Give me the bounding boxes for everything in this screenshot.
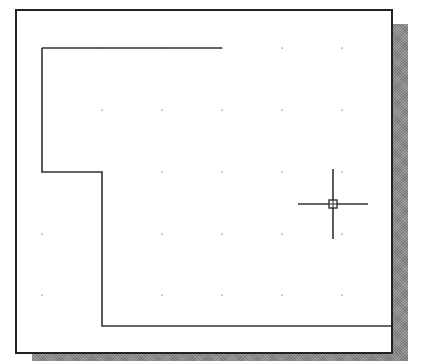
grid-dot — [102, 110, 103, 111]
grid-dot — [162, 172, 163, 173]
outline-polyline[interactable] — [42, 48, 391, 326]
grid-dot — [282, 172, 283, 173]
grid-dot — [342, 110, 343, 111]
grid-dot — [282, 234, 283, 235]
grid-dot — [342, 234, 343, 235]
grid-dot — [222, 295, 223, 296]
grid-dot — [342, 295, 343, 296]
grid-dot — [222, 110, 223, 111]
grid-dot — [342, 48, 343, 49]
grid-dot — [342, 172, 343, 173]
grid-dot — [282, 110, 283, 111]
grid-dot — [282, 48, 283, 49]
grid-dot — [222, 172, 223, 173]
crosshair-cursor-icon — [298, 169, 368, 239]
grid-dot — [282, 295, 283, 296]
grid-dot — [162, 110, 163, 111]
grid-dot — [42, 234, 43, 235]
drawing-svg[interactable] — [0, 0, 425, 361]
grid-dot — [162, 234, 163, 235]
grid-dot — [42, 295, 43, 296]
grid-dot — [162, 295, 163, 296]
grid-dot — [222, 234, 223, 235]
drawn-geometry — [42, 48, 391, 326]
